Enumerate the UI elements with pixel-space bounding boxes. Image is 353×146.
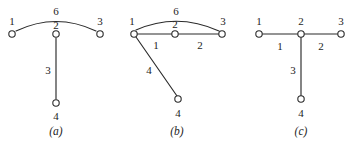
node-label-b-1: 1 [129, 16, 135, 27]
node-b-3 [219, 31, 225, 37]
node-label-a-4: 4 [53, 111, 59, 122]
node-label-c-2: 2 [298, 16, 304, 27]
node-label-c-3: 3 [338, 16, 344, 27]
node-label-a-3: 3 [97, 16, 103, 27]
edge-weight-c-1-2: 1 [277, 41, 283, 52]
node-label-c-1: 1 [256, 16, 262, 27]
node-label-a-2: 2 [53, 20, 59, 31]
node-c-4 [298, 96, 304, 102]
node-c-2 [298, 31, 304, 37]
node-label-b-3: 3 [220, 16, 226, 27]
node-b-4 [175, 96, 181, 102]
edge-weight-c-2-3: 2 [318, 41, 324, 52]
node-b-2 [172, 31, 178, 37]
node-a-3 [97, 31, 103, 37]
edge-weight-b-1-3: 6 [173, 6, 179, 17]
node-c-3 [338, 31, 344, 37]
graph-panel-c: 1 2 3 4 1 2 3 (c) [235, 0, 353, 146]
node-label-c-4: 4 [298, 108, 304, 119]
node-a-1 [9, 31, 15, 37]
node-label-b-4: 4 [175, 108, 181, 119]
node-c-1 [256, 31, 262, 37]
node-label-b-2: 2 [172, 19, 178, 30]
edge-weight-b-1-2: 1 [153, 40, 159, 51]
edge-weight-b-1-4: 4 [146, 65, 152, 76]
graph-panel-b: 1 2 3 4 6 1 2 4 (b) [115, 0, 235, 146]
node-a-4 [53, 100, 59, 106]
edge-weight-b-2-3: 2 [197, 40, 203, 51]
panel-caption-b: (b) [170, 125, 183, 137]
node-label-a-1: 1 [9, 16, 15, 27]
graph-panel-a: 1 2 3 4 6 3 (a) [0, 0, 115, 146]
edge-weight-a-1-3: 6 [53, 6, 59, 17]
figure-root: 1 2 3 4 6 3 (a) 1 2 3 4 6 1 2 4 (b) [0, 0, 353, 146]
edge-weight-a-2-4: 3 [45, 65, 51, 76]
panel-caption-c: (c) [295, 125, 308, 137]
panel-caption-a: (a) [49, 125, 62, 137]
node-b-1 [131, 31, 137, 37]
edge-weight-c-2-4: 3 [290, 65, 296, 76]
node-a-2 [53, 31, 59, 37]
